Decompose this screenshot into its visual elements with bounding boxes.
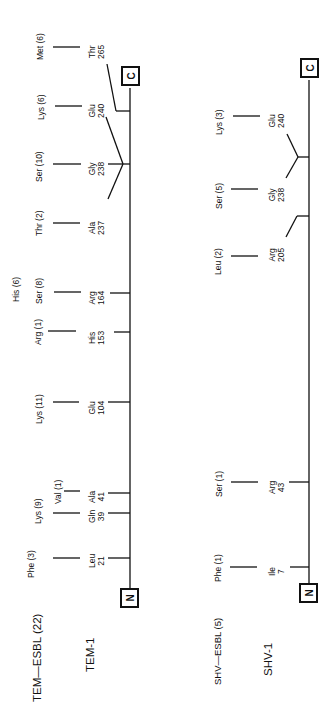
tem-n-label: N [124, 594, 135, 601]
tem-site-164: Arg 164 [88, 291, 106, 305]
tem-sub-104: Lys (11) [35, 394, 44, 424]
shv-n-label: N [303, 589, 314, 596]
tem-sub-240: Lys (6) [37, 94, 46, 120]
tem-sub-153: Arg (1) [34, 319, 43, 345]
tem-sub-238: Ser (10) [35, 151, 44, 182]
tem-sub-39: Lys (9) [34, 498, 43, 524]
tem-pos-238: 238 [97, 162, 106, 176]
tem-site-21: Leu 21 [88, 554, 106, 568]
tem-protein-label: TEM-1 [86, 638, 95, 673]
shv-pos-240: 240 [277, 114, 286, 128]
shv-c-terminus-box: C [300, 58, 319, 78]
tem-pos-39: 39 [97, 510, 106, 523]
shv-sub-240: Lys (3) [215, 109, 224, 135]
diagram-lines [0, 0, 332, 709]
tem-site-240: Glu 240 [88, 104, 106, 118]
tem-site-238: Gly 238 [88, 162, 106, 176]
tem-pos-21: 21 [97, 554, 106, 568]
tem-site-39: Gln 39 [88, 510, 106, 523]
tem-sub-164: Ser (8) [35, 278, 44, 304]
shv-pos-7: 7 [277, 567, 286, 576]
shv-site-43: Arg 43 [268, 481, 286, 494]
tem-pos-240: 240 [97, 104, 106, 118]
shv-pos-238: 238 [277, 188, 286, 202]
tem-site-104: Glu 104 [88, 401, 106, 415]
tem-pos-265: 265 [97, 45, 106, 59]
tem-pos-104: 104 [97, 401, 106, 415]
tem-sub-41: Val (1) [54, 480, 63, 504]
shv-pos-43: 43 [277, 481, 286, 494]
tem-pos-153: 153 [97, 331, 106, 345]
shv-pos-205: 205 [277, 248, 286, 262]
shv-group-label: SHV—ESBL (5) [213, 618, 222, 685]
shv-c-label: C [304, 64, 315, 71]
shv-sub-238: Ser (5) [215, 183, 224, 209]
tem-pos-164: 164 [97, 291, 106, 305]
shv-n-terminus-box: N [299, 583, 318, 603]
shv-protein-label: SHV-1 [264, 643, 273, 676]
tem-sub-265: Met (6) [36, 33, 45, 60]
shv-site-205: Arg 205 [268, 248, 286, 262]
tem-pos-237: 237 [97, 221, 106, 235]
tem-site-153: His 153 [88, 331, 106, 345]
tem-sub-21: Phe (3) [27, 550, 36, 578]
tem-c-terminus-box: C [121, 66, 140, 86]
shv-site-238: Gly 238 [268, 188, 286, 202]
shv-sub-43: Ser (1) [215, 471, 224, 497]
tem-c-label: C [125, 72, 136, 79]
tem-site-237: Ala 237 [88, 221, 106, 235]
tem-sub-164-alt: His (6) [12, 277, 21, 302]
shv-sub-205: Leu (2) [214, 248, 223, 275]
tem-n-terminus-box: N [120, 588, 139, 608]
tem-site-41: Ala 41 [88, 491, 106, 503]
shv-sub-7: Phe (1) [214, 554, 223, 582]
tem-group-label: TEM—ESBL (22) [33, 614, 42, 702]
tem-site-265: Thr 265 [88, 45, 106, 59]
tem-sub-237: Thr (2) [35, 211, 44, 237]
shv-site-240: Glu 240 [268, 114, 286, 128]
tem-pos-41: 41 [97, 491, 106, 503]
shv-site-7: Ile 7 [268, 567, 286, 576]
